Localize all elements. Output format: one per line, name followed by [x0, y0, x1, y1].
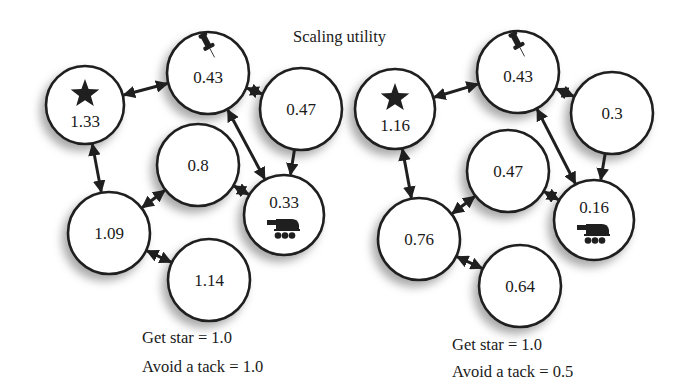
right-caption: Get star = 1.0 Avoid a tack = 0.5	[452, 335, 573, 381]
edge-left-n08-n109	[142, 190, 164, 207]
node-right-star: 1.16	[355, 69, 435, 149]
node-right-tack: 0.43	[477, 30, 559, 113]
node-circle	[46, 66, 124, 144]
node-right-n076: 0.76	[378, 198, 460, 280]
node-right-robot: 0.16	[554, 180, 634, 260]
edge-left-n08-robot	[234, 186, 248, 194]
diagram-canvas: Scaling utility 1.330.430.470.80.331.091…	[0, 0, 689, 392]
node-value: 1.09	[94, 224, 124, 243]
edge-left-star-n109	[92, 144, 101, 191]
node-value: 1.33	[70, 112, 100, 131]
node-right-n047: 0.47	[467, 130, 549, 212]
node-left-robot: 0.33	[244, 175, 324, 255]
node-value: 0.47	[493, 162, 523, 181]
edge-right-tack-star	[434, 84, 478, 97]
right-caption-avoid-tack: Avoid a tack = 0.5	[452, 362, 573, 381]
edge-right-star-n076	[402, 149, 411, 197]
node-value: 0.47	[286, 100, 316, 119]
node-left-n114: 1.14	[168, 239, 250, 321]
right-caption-get-star: Get star = 1.0	[452, 335, 542, 354]
node-value: 0.43	[503, 67, 533, 86]
node-right-n03: 0.3	[571, 72, 653, 154]
edge-right-n076-n064	[457, 257, 482, 269]
edge-right-n047-robot	[544, 192, 558, 200]
edge-left-tack-star	[124, 84, 168, 95]
nodes: 1.330.430.470.80.331.091.141.160.430.30.…	[46, 30, 653, 327]
left-caption-avoid-tack: Avoid a tack = 1.0	[142, 357, 263, 376]
node-left-n08: 0.8	[157, 124, 239, 206]
edge-left-tack-n047	[247, 88, 262, 94]
node-right-n064: 0.64	[479, 245, 561, 327]
node-value: 1.14	[194, 271, 224, 290]
node-left-tack: 0.43	[167, 31, 249, 114]
node-value: 0.16	[579, 198, 609, 217]
node-left-n109: 1.09	[68, 192, 150, 274]
node-left-star: 1.33	[46, 66, 124, 144]
node-value: 0.43	[193, 68, 223, 87]
node-value: 0.76	[404, 230, 434, 249]
node-circle	[244, 175, 324, 255]
node-circle	[355, 69, 435, 149]
scaling-utility-diagram: Scaling utility 1.330.430.470.80.331.091…	[0, 0, 689, 392]
node-value: 0.3	[601, 104, 622, 123]
node-circle	[554, 180, 634, 260]
node-value: 0.64	[505, 277, 535, 296]
edge-right-tack-n03	[556, 89, 573, 96]
diagram-title: Scaling utility	[293, 27, 387, 46]
node-value: 0.33	[269, 193, 299, 212]
node-left-n047: 0.47	[260, 68, 342, 150]
edge-right-n047-n076	[452, 196, 474, 213]
node-value: 0.8	[187, 156, 208, 175]
left-caption-get-star: Get star = 1.0	[142, 328, 232, 347]
edge-left-n109-n114	[147, 251, 171, 262]
node-value: 1.16	[380, 116, 410, 135]
left-caption: Get star = 1.0 Avoid a tack = 1.0	[142, 328, 263, 376]
